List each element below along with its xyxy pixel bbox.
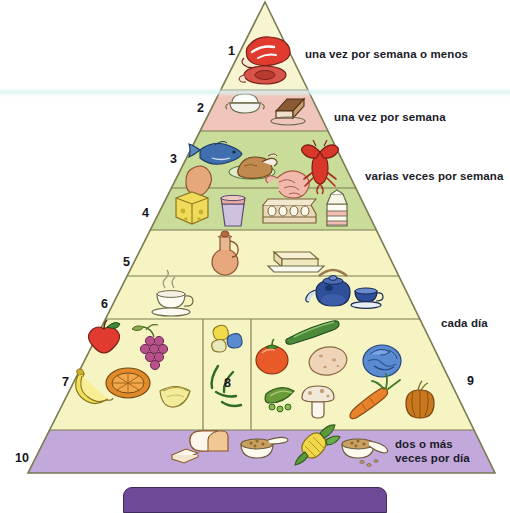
frequency-label-level-9: cada día: [441, 316, 488, 330]
icon-egg-carton: [263, 199, 316, 223]
icon-cheese: [176, 192, 208, 224]
level-number-7: 7: [62, 375, 69, 389]
level-number-9: 9: [467, 374, 474, 388]
frequency-label-level-1: una vez por semana o menos: [305, 47, 468, 61]
frequency-label-level-10: dos o más veces por día: [395, 437, 470, 466]
level-number-4: 4: [142, 206, 149, 220]
bottom-purple-bar: [123, 487, 387, 513]
level-4-band: [0, 188, 510, 230]
level-6-band: [0, 276, 510, 319]
level-number-1: 1: [228, 44, 235, 58]
level-number-6: 6: [101, 297, 108, 311]
frequency-label-level-3: varias veces por semana: [365, 169, 503, 183]
icon-orange-half: [106, 368, 150, 398]
level-5-band: [0, 230, 510, 276]
level-number-8: 8: [224, 376, 231, 390]
level-number-2: 2: [197, 101, 204, 115]
icon-milk-carton: [327, 190, 347, 226]
level-number-10: 10: [15, 451, 29, 465]
frequency-label-level-2: una vez por semana: [334, 110, 446, 124]
level-789-band: [0, 319, 510, 430]
level-number-3: 3: [170, 152, 177, 166]
icon-cabbage: [363, 345, 401, 377]
level-number-5: 5: [123, 255, 130, 269]
icon-yogurt-cup: [221, 195, 245, 226]
